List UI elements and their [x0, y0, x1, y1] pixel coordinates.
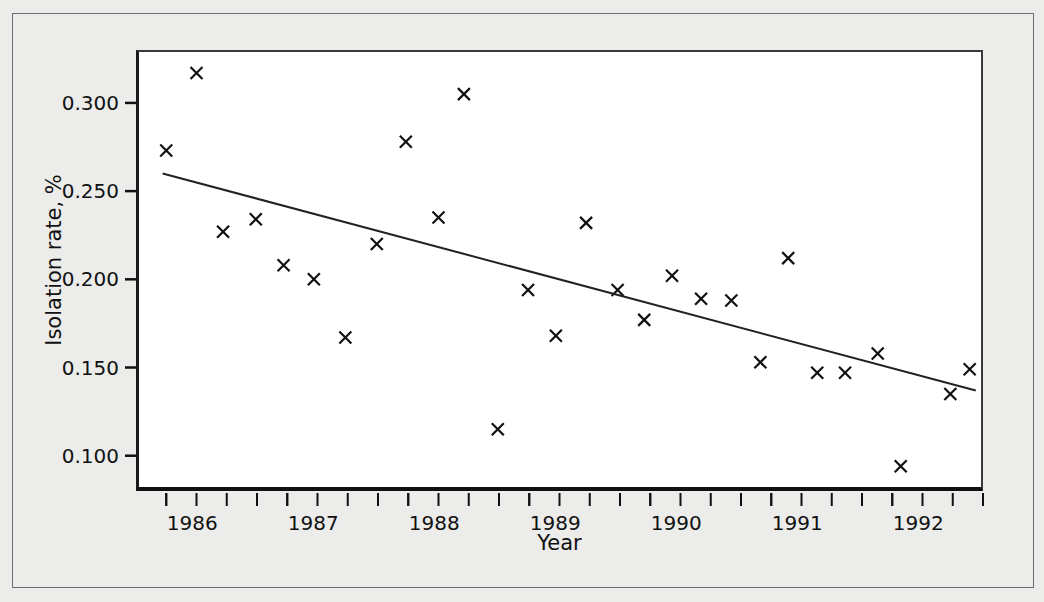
y-axis-title: Isolation rate, % — [42, 130, 66, 390]
y-axis-tick-label: 0.100 — [20, 444, 119, 468]
plot-area — [136, 50, 983, 491]
figure-container: 0.3000.2500.2000.1500.100 19861987198819… — [0, 0, 1044, 602]
x-axis-title: Year — [136, 531, 983, 555]
y-axis-tick-label: 0.300 — [20, 91, 119, 115]
y-axis-tick-label: 0.250 — [20, 179, 119, 203]
y-axis-tick-label: 0.200 — [20, 267, 119, 291]
y-axis-tick-label: 0.150 — [20, 356, 119, 380]
